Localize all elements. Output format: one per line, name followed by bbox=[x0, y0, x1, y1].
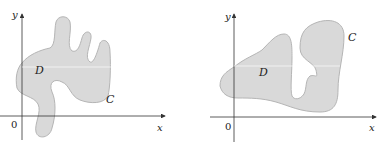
right-origin-label: 0 bbox=[225, 121, 231, 132]
right-x-label: x bbox=[369, 122, 375, 133]
right-curve-label: C bbox=[348, 31, 357, 44]
left-y-label: y bbox=[11, 9, 18, 20]
left-curve-label: C bbox=[106, 93, 115, 106]
right-figure: y x 0 D C bbox=[210, 11, 376, 142]
left-figure: y x 0 D C bbox=[0, 9, 165, 140]
right-region-label: D bbox=[258, 66, 268, 79]
left-x-label: x bbox=[157, 122, 163, 133]
left-region-d bbox=[16, 17, 110, 137]
right-y-label: y bbox=[224, 11, 231, 22]
left-origin-label: 0 bbox=[11, 119, 17, 130]
left-region-label: D bbox=[34, 64, 44, 77]
diagram-canvas: y x 0 D C y x 0 D C bbox=[0, 0, 382, 155]
